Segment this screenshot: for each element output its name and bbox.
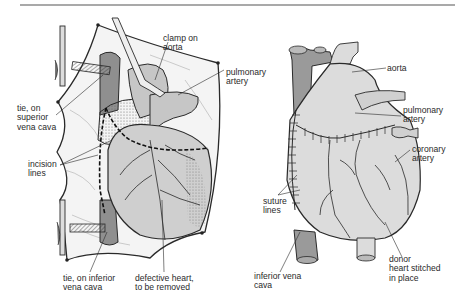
label-suture-lines: suture lines [263, 197, 287, 216]
right-panel-donor-heart [278, 42, 420, 272]
label-donor-heart: donor heart stitched in place [389, 255, 441, 283]
illustration [0, 0, 455, 307]
label-pulmonary-artery-right: pulmonary artery [403, 106, 443, 125]
label-tie-superior-vena-cava: tie, on superior vena cava [17, 104, 56, 132]
left-panel-recipient-heart [55, 18, 224, 272]
label-aorta: aorta [387, 64, 407, 73]
label-incision-lines: incision lines [28, 160, 57, 179]
label-clamp-on-aorta: clamp on aorta [163, 34, 198, 53]
label-tie-inferior-vena-cava: tie, on inferior vena cava [63, 274, 115, 293]
label-defective-heart: defective heart, to be removed [135, 274, 194, 293]
label-inferior-vena-cava: inferior vena cava [254, 272, 301, 291]
label-pulmonary-artery-left: pulmonary artery [226, 68, 266, 87]
label-coronary-artery: coronary artery [412, 145, 445, 164]
